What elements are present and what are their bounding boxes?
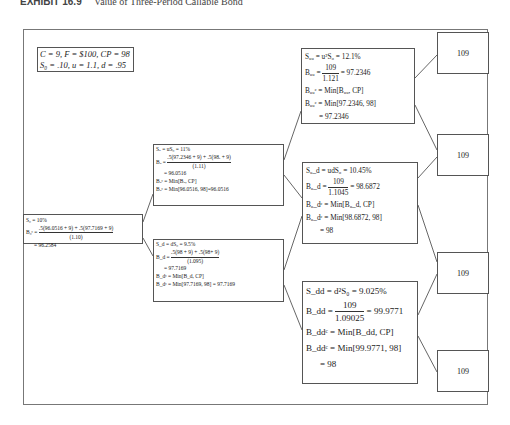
root-rate: S₀ = 10% [26, 216, 140, 224]
node-up-value: = 96.0516 [156, 170, 281, 178]
node-dd-result: = 98 [306, 356, 414, 372]
node-up-numerator: .5(97.2346 + 9) + .5(98. + 9) [167, 154, 230, 163]
node-uu-fraction: 109 1.121 [322, 63, 338, 84]
root-value: = 96.2584 [26, 241, 140, 249]
node-dd-numerator: 109 [335, 299, 364, 312]
node-uu-denominator: 1.121 [322, 74, 338, 84]
node-dd-bond-label: B_dd = [306, 306, 333, 316]
node-uu-call-rule: Bᵤᵤᶜ = Min[Bᵤᵤ, CP] [305, 84, 411, 97]
node-ud-bond-label: Bᵤ_d = [306, 182, 327, 191]
node-ud-result: = 98 [306, 224, 414, 237]
node-dd-rate: S_dd = d²S₀ = 9.025% [306, 283, 414, 299]
node-up-fraction: .5(97.2346 + 9) + .5(98. + 9) (1.11) [167, 154, 230, 171]
node-up-bond-label: Bᵤ = [156, 158, 166, 164]
parameters-line-1: C = 9, F = $100, CP = 98 [40, 49, 131, 60]
node-dd-call-value: B_ddᶜ = Min[99.9771, 98] [306, 340, 414, 356]
node-dd-fraction: 109 1.09025 [335, 299, 364, 324]
node-down-value: = 97.7169 [156, 265, 281, 273]
root-denominator: (1.10) [39, 233, 113, 241]
node-ud-bond-value: = 98.6872 [350, 182, 380, 191]
node-down-bond-label: B_d = [156, 253, 170, 259]
node-ud-rate: Sᵤ_d = udS₀ = 10.45% [306, 164, 414, 177]
node-down-rate: S_d = dS₀ = 9.5% [156, 241, 281, 249]
node-down: S_d = dS₀ = 9.5% B_d = .5(98 + 9) + .5(9… [153, 239, 284, 302]
root-numerator: .5(96.0516 + 9) + .5(97.7169 + 9) [39, 224, 113, 233]
node-dd-denominator: 1.09025 [335, 312, 364, 324]
node-ud-numerator: 109 [328, 177, 348, 188]
node-ud-call-value: Bᵤ_dᶜ = Min[98.6872, 98] [306, 211, 414, 224]
leaf-node-1: 109 [437, 32, 489, 74]
node-uu-bond-label: Bᵤᵤ = [305, 68, 321, 77]
node-up-call-value: Bᵤᶜ = Min[96.0516, 98]=96.0516 [156, 186, 281, 194]
node-up: Sᵤ = uS₀ = 11% Bᵤ = .5(97.2346 + 9) + .5… [153, 144, 284, 206]
root-bond-label: B₀ᶜ = [26, 229, 37, 235]
node-uu-call-value: Bᵤᵤᶜ = Min[97.2346, 98] [305, 97, 411, 110]
parameters-line-2: S₀ = .10, u = 1.1, d = .95 [40, 60, 131, 71]
node-ud-denominator: 1.1045 [328, 188, 348, 198]
node-down-down: S_dd = d²S₀ = 9.025% B_dd = 109 1.09025 … [302, 281, 418, 384]
root-node: S₀ = 10% B₀ᶜ = .5(96.0516 + 9) + .5(97.7… [23, 214, 143, 244]
node-down-call-rule: B_dᶜ = Min[B_d, CP] [156, 273, 281, 281]
node-up-rate: Sᵤ = uS₀ = 11% [156, 146, 281, 154]
node-up-up: Sᵤᵤ = u²S₀ = 12.1% Bᵤᵤ = 109 1.121 = 97.… [301, 48, 415, 124]
node-ud-fraction: 109 1.1045 [328, 177, 348, 198]
node-uu-numerator: 109 [322, 63, 338, 74]
node-down-call-value: B_dᶜ = Min[97.7169, 98] = 97.7169 [156, 281, 281, 289]
node-down-numerator: .5(98 + 9) + .5(98+ 9) [171, 249, 219, 258]
node-dd-call-rule: B_ddᶜ = Min[B_dd, CP] [306, 324, 414, 340]
node-up-down: Sᵤ_d = udS₀ = 10.45% Bᵤ_d = 109 1.1045 =… [302, 162, 418, 244]
node-uu-bond-value: = 97.2346 [341, 68, 371, 77]
root-fraction: .5(96.0516 + 9) + .5(97.7169 + 9) (1.10) [39, 224, 113, 241]
node-down-fraction: .5(98 + 9) + .5(98+ 9) (1.095) [171, 249, 219, 266]
node-ud-call-rule: Bᵤ_dᶜ = Min[Bᵤ_d, CP] [306, 198, 414, 211]
node-uu-rate: Sᵤᵤ = u²S₀ = 12.1% [305, 50, 411, 63]
parameters-box: C = 9, F = $100, CP = 98 S₀ = .10, u = 1… [37, 47, 134, 72]
node-up-call-rule: Bᵤᶜ = Min[Bᵤ, CP] [156, 178, 281, 186]
leaf-node-2: 109 [437, 134, 489, 176]
node-up-denominator: (1.11) [167, 163, 230, 171]
node-dd-bond-value: = 99.9771 [367, 306, 404, 316]
node-uu-result: = 97.2346 [305, 110, 411, 123]
leaf-node-3: 109 [437, 252, 489, 294]
node-down-denominator: (1.095) [171, 258, 219, 266]
leaf-node-4: 109 [437, 350, 489, 392]
